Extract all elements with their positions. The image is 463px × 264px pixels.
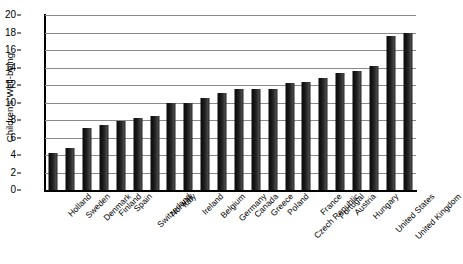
x-axis-labels: HollandSwedenDenmarkFinlandSpainSwitzerl… xyxy=(45,192,416,264)
bar-slot xyxy=(96,15,113,190)
bar-slot xyxy=(146,15,163,190)
bar xyxy=(369,66,378,190)
bar-slot xyxy=(247,15,264,190)
bar-slot xyxy=(281,15,298,190)
y-tick-label: 4 xyxy=(0,150,16,160)
bar xyxy=(49,153,58,190)
bar-slot xyxy=(112,15,129,190)
bar xyxy=(285,83,294,190)
y-tick-mark xyxy=(17,172,21,173)
bar xyxy=(386,36,395,190)
bar-slot xyxy=(264,15,281,190)
y-tick-label: 2 xyxy=(0,168,16,178)
y-tick-label: 6 xyxy=(0,133,16,143)
bar-slot xyxy=(231,15,248,190)
gridline xyxy=(45,190,416,191)
bar-slot xyxy=(382,15,399,190)
bar xyxy=(319,78,328,190)
y-tick-mark xyxy=(17,85,21,86)
y-tick-mark xyxy=(17,15,21,16)
y-tick-mark xyxy=(17,67,21,68)
bar xyxy=(336,73,345,190)
y-tick-label: 10 xyxy=(0,98,16,108)
bar xyxy=(403,33,412,191)
bar xyxy=(116,121,125,190)
bar xyxy=(150,116,159,190)
bar-slot xyxy=(62,15,79,190)
y-tick-mark xyxy=(17,137,21,138)
y-tick-label: 8 xyxy=(0,115,16,125)
y-axis-ticks: 02468101214161820 xyxy=(0,0,45,205)
bar xyxy=(234,89,243,191)
y-tick-mark xyxy=(17,155,21,156)
bar-slot xyxy=(349,15,366,190)
y-tick-label: 18 xyxy=(0,28,16,38)
y-tick-mark xyxy=(17,50,21,51)
y-tick-label: 12 xyxy=(0,80,16,90)
bar-slot xyxy=(180,15,197,190)
bar-series xyxy=(45,15,416,190)
y-tick-mark xyxy=(17,32,21,33)
bar xyxy=(100,125,109,190)
bar-slot xyxy=(197,15,214,190)
y-tick-label: 14 xyxy=(0,63,16,73)
bar xyxy=(201,98,210,190)
bar-slot xyxy=(214,15,231,190)
bar xyxy=(66,148,75,190)
bar xyxy=(218,93,227,190)
bar-slot xyxy=(79,15,96,190)
bar xyxy=(251,89,260,191)
bar-slot xyxy=(365,15,382,190)
bar-slot xyxy=(298,15,315,190)
bar-slot xyxy=(163,15,180,190)
bar-slot xyxy=(315,15,332,190)
bar xyxy=(302,82,311,190)
y-tick-label: 0 xyxy=(0,185,16,195)
bar-slot xyxy=(399,15,416,190)
bar xyxy=(184,103,193,191)
bar xyxy=(133,118,142,190)
bar xyxy=(268,89,277,191)
y-tick-mark xyxy=(17,120,21,121)
bar xyxy=(167,103,176,190)
y-tick-label: 16 xyxy=(0,45,16,55)
bar xyxy=(352,71,361,190)
bar-slot xyxy=(45,15,62,190)
y-tick-mark xyxy=(17,102,21,103)
bar xyxy=(83,128,92,190)
y-tick-mark xyxy=(17,190,21,191)
bar-slot xyxy=(332,15,349,190)
y-tick-label: 20 xyxy=(0,10,16,20)
bar-slot xyxy=(129,15,146,190)
